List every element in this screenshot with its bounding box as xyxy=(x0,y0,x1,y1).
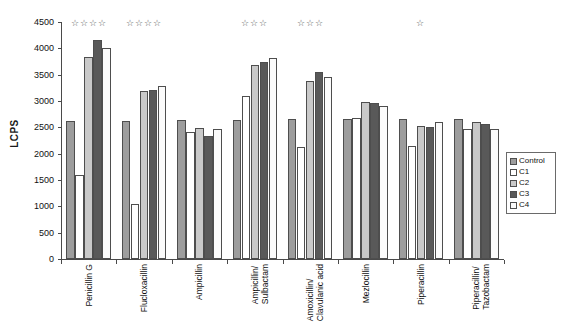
bar-c2 xyxy=(306,81,314,259)
bar-group xyxy=(172,22,227,259)
legend-label: C4 xyxy=(519,201,529,209)
bar-c3 xyxy=(315,72,323,259)
x-axis-separator xyxy=(227,260,228,264)
significance-stars: ☆☆☆☆ xyxy=(126,19,162,28)
y-tick-label: 2000 xyxy=(34,149,54,159)
bar-control xyxy=(177,120,185,259)
bar-c3 xyxy=(370,103,378,259)
y-tick-label: 2500 xyxy=(34,122,54,132)
bar-c1 xyxy=(352,118,360,259)
bar-c4 xyxy=(379,106,387,259)
bar-c1 xyxy=(75,175,83,259)
plot-area: ☆☆☆☆☆☆☆☆☆☆☆☆☆☆☆ xyxy=(61,22,504,259)
bar-c4 xyxy=(102,48,110,259)
legend-swatch-icon xyxy=(510,180,517,187)
bar-c4 xyxy=(435,122,443,259)
x-tick-label: Flucloxacillin xyxy=(140,264,150,312)
x-axis-separator xyxy=(338,260,339,264)
x-tick-label: Amoxicillin/ Clavulanic acid xyxy=(306,264,325,321)
bar-control xyxy=(288,119,296,259)
legend: ControlC1C2C3C4 xyxy=(506,152,556,214)
bar-group: ☆☆☆☆ xyxy=(116,22,171,259)
legend-item[interactable]: C1 xyxy=(510,167,553,177)
legend-label: C3 xyxy=(519,190,529,198)
legend-swatch-icon xyxy=(510,158,517,165)
y-tick-label: 0 xyxy=(49,254,54,264)
bar-c4 xyxy=(213,129,221,259)
bar-c4 xyxy=(158,86,166,259)
bar-c1 xyxy=(186,132,194,259)
bar-c1 xyxy=(242,96,250,259)
x-axis-separator xyxy=(61,260,62,264)
bar-c1 xyxy=(408,146,416,259)
bar-c2 xyxy=(472,122,480,259)
bar-c1 xyxy=(297,147,305,259)
bar-control xyxy=(233,120,241,259)
bar-control xyxy=(454,119,462,259)
significance-stars: ☆☆☆ xyxy=(297,19,324,28)
legend-label: Control xyxy=(519,157,545,165)
significance-stars: ☆☆☆ xyxy=(241,19,268,28)
x-axis-separator xyxy=(116,260,117,264)
legend-swatch-icon xyxy=(510,202,517,209)
bar-group: ☆☆☆☆ xyxy=(61,22,116,259)
significance-stars: ☆ xyxy=(416,19,425,28)
legend-item[interactable]: Control xyxy=(510,156,553,166)
bar-c4 xyxy=(490,129,498,259)
bar-control xyxy=(343,119,351,259)
y-tick-label: 3000 xyxy=(34,96,54,106)
x-tick-label: Mezlocillin xyxy=(362,264,372,303)
bar-c2 xyxy=(195,128,203,259)
bar-chart-figure: LCPS 05001000150020002500300035004000450… xyxy=(0,0,572,336)
bar-c2 xyxy=(361,102,369,259)
bar-c2 xyxy=(251,65,259,259)
bar-group: ☆☆☆ xyxy=(283,22,338,259)
bar-c1 xyxy=(131,204,139,259)
y-tick-label: 500 xyxy=(39,228,54,238)
legend-swatch-icon xyxy=(510,169,517,176)
x-tick-label: Piperacillin/ Tazobactam xyxy=(472,264,491,310)
bar-c2 xyxy=(417,126,425,259)
significance-stars: ☆☆☆☆ xyxy=(71,19,107,28)
y-tick-label: 4500 xyxy=(34,17,54,27)
y-tick-label: 1000 xyxy=(34,201,54,211)
bar-control xyxy=(66,121,74,260)
bar-c3 xyxy=(204,136,212,259)
x-axis-separator xyxy=(283,260,284,264)
bar-group xyxy=(338,22,393,259)
legend-label: C2 xyxy=(519,179,529,187)
legend-item[interactable]: C4 xyxy=(510,200,553,210)
x-tick-label: Ampicillin xyxy=(195,264,205,300)
x-axis-separator xyxy=(393,260,394,264)
legend-swatch-icon xyxy=(510,191,517,198)
bar-group: ☆ xyxy=(393,22,448,259)
bar-group: ☆☆☆ xyxy=(227,22,282,259)
y-tick-label: 4000 xyxy=(34,43,54,53)
bar-c3 xyxy=(260,62,268,259)
bar-c4 xyxy=(269,58,277,259)
x-tick-label: Piperacillin xyxy=(417,264,427,305)
bar-control xyxy=(399,119,407,259)
x-axis-labels: Penicillin GFlucloxacillinAmpicillinAmpi… xyxy=(61,264,504,336)
x-tick-label: Ampicillin/ Sulbactam xyxy=(251,264,270,304)
x-axis-separator xyxy=(504,260,505,264)
legend-item[interactable]: C2 xyxy=(510,178,553,188)
x-axis-separator xyxy=(449,260,450,264)
legend-item[interactable]: C3 xyxy=(510,189,553,199)
bar-c3 xyxy=(93,40,101,259)
bar-c3 xyxy=(149,90,157,259)
y-tick-label: 1500 xyxy=(34,175,54,185)
legend-label: C1 xyxy=(519,168,529,176)
x-tick-label: Penicillin G xyxy=(85,264,95,307)
bar-c2 xyxy=(84,57,92,259)
x-axis-separator xyxy=(172,260,173,264)
bar-c2 xyxy=(140,91,148,259)
y-tick-label: 3500 xyxy=(34,70,54,80)
bar-c4 xyxy=(324,77,332,259)
y-axis-ticks: 050010001500200025003000350040004500 xyxy=(0,0,62,336)
bar-c1 xyxy=(463,129,471,259)
bar-group xyxy=(449,22,504,259)
bar-c3 xyxy=(426,127,434,259)
bar-control xyxy=(122,121,130,260)
bar-c3 xyxy=(481,124,489,259)
